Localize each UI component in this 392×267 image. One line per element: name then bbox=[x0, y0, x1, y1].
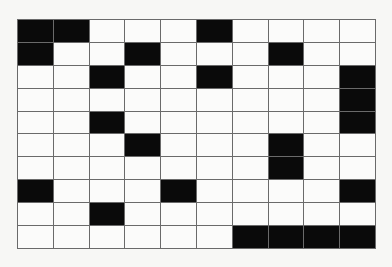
grid-cell-filled bbox=[197, 20, 233, 43]
grid-cell-empty[interactable] bbox=[340, 157, 376, 180]
grid-cell-empty[interactable] bbox=[197, 203, 233, 226]
grid-cell-empty[interactable] bbox=[161, 134, 197, 157]
grid-cell-empty[interactable] bbox=[18, 203, 54, 226]
grid-cell-empty[interactable] bbox=[54, 112, 90, 135]
grid-cell-empty[interactable] bbox=[304, 157, 340, 180]
grid-cell-filled bbox=[340, 180, 376, 203]
grid-cell-empty[interactable] bbox=[340, 20, 376, 43]
grid-cell-empty[interactable] bbox=[90, 43, 126, 66]
grid-cell-filled bbox=[90, 112, 126, 135]
grid-cell-filled bbox=[18, 43, 54, 66]
grid-cell-empty[interactable] bbox=[340, 43, 376, 66]
grid-cell-empty[interactable] bbox=[233, 20, 269, 43]
grid-cell-empty[interactable] bbox=[161, 66, 197, 89]
grid-cell-empty[interactable] bbox=[125, 112, 161, 135]
grid-cell-empty[interactable] bbox=[125, 89, 161, 112]
grid-cell-empty[interactable] bbox=[54, 226, 90, 249]
grid-cell-empty[interactable] bbox=[125, 180, 161, 203]
grid-cell-empty[interactable] bbox=[197, 89, 233, 112]
grid-cell-empty[interactable] bbox=[125, 66, 161, 89]
grid-cell-empty[interactable] bbox=[340, 203, 376, 226]
grid-cell-empty[interactable] bbox=[304, 89, 340, 112]
grid-cell-empty[interactable] bbox=[18, 66, 54, 89]
grid-cell-empty[interactable] bbox=[90, 134, 126, 157]
grid-cell-empty[interactable] bbox=[233, 43, 269, 66]
grid-cell-empty[interactable] bbox=[54, 203, 90, 226]
grid-cell-empty[interactable] bbox=[125, 226, 161, 249]
grid-cell-empty[interactable] bbox=[90, 180, 126, 203]
grid-cell-empty[interactable] bbox=[54, 180, 90, 203]
grid-cell-empty[interactable] bbox=[54, 89, 90, 112]
grid-cell-empty[interactable] bbox=[233, 134, 269, 157]
grid-cell-empty[interactable] bbox=[233, 203, 269, 226]
grid-cell-empty[interactable] bbox=[90, 226, 126, 249]
grid-cell-empty[interactable] bbox=[161, 43, 197, 66]
grid-cell-empty[interactable] bbox=[125, 157, 161, 180]
grid-cell-empty[interactable] bbox=[161, 157, 197, 180]
grid-cell-filled bbox=[304, 226, 340, 249]
grid-cell-filled bbox=[125, 134, 161, 157]
grid-cell-empty[interactable] bbox=[197, 180, 233, 203]
grid-cell-filled bbox=[18, 180, 54, 203]
grid-cell-empty[interactable] bbox=[233, 89, 269, 112]
grid-cell-empty[interactable] bbox=[304, 203, 340, 226]
grid-cell-filled bbox=[340, 226, 376, 249]
grid-cell-empty[interactable] bbox=[304, 112, 340, 135]
grid-cell-empty[interactable] bbox=[18, 134, 54, 157]
grid-cell-empty[interactable] bbox=[233, 66, 269, 89]
grid-cell-empty[interactable] bbox=[269, 180, 305, 203]
grid-cell-filled bbox=[269, 134, 305, 157]
grid-cell-empty[interactable] bbox=[197, 157, 233, 180]
grid-cell-empty[interactable] bbox=[125, 203, 161, 226]
grid-cell-empty[interactable] bbox=[197, 134, 233, 157]
grid-cell-empty[interactable] bbox=[18, 89, 54, 112]
grid-cell-filled bbox=[125, 43, 161, 66]
grid-cell-empty[interactable] bbox=[269, 20, 305, 43]
grid-cell-empty[interactable] bbox=[125, 20, 161, 43]
grid-cell-empty[interactable] bbox=[304, 180, 340, 203]
grid-cell-empty[interactable] bbox=[340, 134, 376, 157]
grid-cell-empty[interactable] bbox=[18, 112, 54, 135]
grid-cell-empty[interactable] bbox=[304, 43, 340, 66]
grid-cell-filled bbox=[340, 89, 376, 112]
grid-cell-empty[interactable] bbox=[197, 43, 233, 66]
grid-cell-empty[interactable] bbox=[233, 157, 269, 180]
grid-cell-empty[interactable] bbox=[54, 134, 90, 157]
grid-cell-empty[interactable] bbox=[197, 226, 233, 249]
grid-cell-filled bbox=[233, 226, 269, 249]
grid-cell-empty[interactable] bbox=[54, 66, 90, 89]
grid-cell-filled bbox=[340, 112, 376, 135]
grid-cell-empty[interactable] bbox=[90, 89, 126, 112]
grid-cell-empty[interactable] bbox=[233, 112, 269, 135]
grid-cell-empty[interactable] bbox=[161, 226, 197, 249]
grid-cell-empty[interactable] bbox=[304, 134, 340, 157]
grid-cell-filled bbox=[269, 226, 305, 249]
grid-cell-empty[interactable] bbox=[54, 43, 90, 66]
grid-cell-empty[interactable] bbox=[233, 180, 269, 203]
grid-cell-empty[interactable] bbox=[161, 112, 197, 135]
crossword-grid bbox=[17, 19, 376, 249]
grid-cell-filled bbox=[90, 203, 126, 226]
grid-cell-empty[interactable] bbox=[54, 157, 90, 180]
grid-cell-empty[interactable] bbox=[269, 89, 305, 112]
grid-cell-empty[interactable] bbox=[18, 226, 54, 249]
grid-cell-empty[interactable] bbox=[161, 20, 197, 43]
grid-cell-empty[interactable] bbox=[269, 203, 305, 226]
grid-cell-filled bbox=[90, 66, 126, 89]
grid-cell-empty[interactable] bbox=[90, 157, 126, 180]
grid-cell-empty[interactable] bbox=[161, 203, 197, 226]
grid-cell-empty[interactable] bbox=[304, 20, 340, 43]
grid-cell-empty[interactable] bbox=[161, 89, 197, 112]
grid-cell-empty[interactable] bbox=[18, 157, 54, 180]
grid-cell-empty[interactable] bbox=[304, 66, 340, 89]
grid-cell-empty[interactable] bbox=[90, 20, 126, 43]
grid-cell-filled bbox=[161, 180, 197, 203]
grid-cell-empty[interactable] bbox=[269, 66, 305, 89]
grid-cell-filled bbox=[340, 66, 376, 89]
grid-cell-filled bbox=[269, 43, 305, 66]
grid-cell-empty[interactable] bbox=[269, 112, 305, 135]
grid-cell-filled bbox=[197, 66, 233, 89]
grid-cell-filled bbox=[269, 157, 305, 180]
grid-cell-empty[interactable] bbox=[197, 112, 233, 135]
grid-cell-filled bbox=[18, 20, 54, 43]
